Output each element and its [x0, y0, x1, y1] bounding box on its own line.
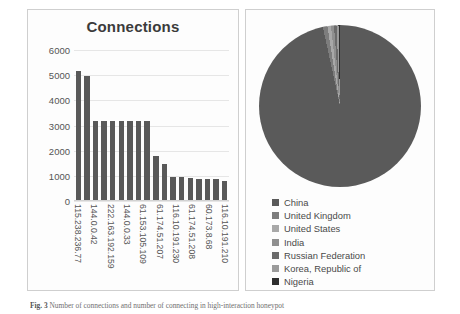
x-tick-slot: 60.173.8.68 — [205, 202, 213, 286]
caption-figure-number: Fig. 3 — [30, 301, 48, 310]
bar-slot — [83, 50, 92, 201]
x-tick-slot: 61.153.105.109 — [139, 202, 147, 286]
bar-slot — [212, 50, 221, 201]
bar-slot — [117, 50, 126, 201]
legend-swatch-icon — [272, 239, 279, 246]
legend-swatch-icon — [272, 212, 279, 219]
bar[interactable] — [196, 179, 201, 201]
x-tick-slot — [147, 202, 155, 286]
legend-item[interactable]: United Kingdom — [272, 209, 428, 222]
legend-label: China — [284, 197, 309, 208]
x-axis-tick: 116.10.191.210 — [220, 204, 230, 263]
legend-item[interactable]: Nigeria — [272, 275, 428, 288]
charts-row: Connections 6000500040003000200010000 11… — [27, 9, 435, 291]
bar[interactable] — [205, 179, 210, 201]
bar-slot — [169, 50, 178, 201]
x-tick-slot — [196, 202, 204, 286]
bar-slot — [220, 50, 229, 201]
y-axis-tick: 1000 — [49, 170, 70, 181]
x-tick-slot: 115.238.236.77 — [74, 202, 82, 286]
bar[interactable] — [179, 177, 184, 201]
legend-item[interactable]: United States — [272, 222, 428, 235]
bar[interactable] — [144, 121, 149, 201]
bar-slot — [160, 50, 169, 201]
legend-item[interactable]: India — [272, 236, 428, 249]
x-tick-slot: 144.0.0.33 — [123, 202, 131, 286]
bar[interactable] — [188, 178, 193, 201]
pie-chart-legend: ChinaUnited KingdomUnited StatesIndiaRus… — [272, 196, 428, 288]
bar-slot — [203, 50, 212, 201]
x-tick-slot: 116.10.191.230 — [172, 202, 180, 286]
bar-slot — [177, 50, 186, 201]
bar-slot — [74, 50, 83, 201]
pie-chart-area — [246, 18, 434, 194]
legend-label: United Kingdom — [284, 210, 351, 221]
bar-slot — [143, 50, 152, 201]
y-axis-tick-labels: 6000500040003000200010000 — [30, 50, 72, 201]
bar-slot — [151, 50, 160, 201]
legend-item[interactable]: China — [272, 196, 428, 209]
legend-swatch-icon — [272, 252, 279, 259]
bar[interactable] — [110, 121, 115, 201]
y-axis-tick: 0 — [65, 196, 70, 207]
pie-chart-panel: ChinaUnited KingdomUnited StatesIndiaRus… — [245, 9, 435, 291]
x-tick-slot: 116.10.191.210 — [221, 202, 229, 286]
bar-chart-title: Connections — [28, 18, 238, 35]
bar-slot — [186, 50, 195, 201]
bar[interactable] — [153, 156, 158, 201]
bar[interactable] — [127, 121, 132, 201]
legend-label: Nigeria — [284, 276, 314, 287]
bar-slot — [108, 50, 117, 201]
figure-caption: Fig. 3 Number of connections and number … — [30, 301, 434, 311]
pie-chart — [259, 25, 421, 187]
y-axis-tick: 6000 — [49, 45, 70, 56]
x-tick-slot: 61.174.51.208 — [188, 202, 196, 286]
bar[interactable] — [93, 121, 98, 201]
bar-chart-plot-area — [74, 50, 229, 201]
legend-label: Korea, Republic of — [284, 263, 361, 274]
bar-chart-panel: Connections 6000500040003000200010000 11… — [27, 9, 239, 291]
bar-slot — [126, 50, 135, 201]
x-axis-tick-labels: 115.238.236.77144.0.0.42222.163.192.1591… — [74, 202, 229, 286]
legend-item[interactable]: Korea, Republic of — [272, 262, 428, 275]
x-tick-slot: 144.0.0.42 — [90, 202, 98, 286]
y-axis-tick: 5000 — [49, 70, 70, 81]
bar[interactable] — [84, 76, 89, 201]
legend-item[interactable]: Russian Federation — [272, 249, 428, 262]
bar[interactable] — [119, 121, 124, 201]
y-axis-tick: 2000 — [49, 145, 70, 156]
bar[interactable] — [76, 71, 81, 201]
bar-slot — [100, 50, 109, 201]
y-axis-tick: 3000 — [49, 120, 70, 131]
caption-text: Number of connections and number of conn… — [50, 301, 285, 310]
bar-series — [74, 50, 229, 201]
legend-label: United States — [284, 223, 340, 234]
bar-slot — [91, 50, 100, 201]
legend-swatch-icon — [272, 225, 279, 232]
bar-slot — [195, 50, 204, 201]
bar[interactable] — [170, 177, 175, 201]
bar[interactable] — [101, 121, 106, 201]
bar[interactable] — [162, 164, 167, 201]
figure-container: Connections 6000500040003000200010000 11… — [0, 0, 460, 314]
legend-swatch-icon — [272, 265, 279, 272]
bar[interactable] — [213, 179, 218, 201]
x-tick-slot — [98, 202, 106, 286]
x-tick-slot: 222.163.192.159 — [107, 202, 115, 286]
legend-swatch-icon — [272, 278, 279, 285]
legend-label: India — [284, 237, 304, 248]
legend-swatch-icon — [272, 199, 279, 206]
bar[interactable] — [136, 121, 141, 201]
y-axis-tick: 4000 — [49, 95, 70, 106]
x-tick-slot: 61.174.51.207 — [156, 202, 164, 286]
bar-slot — [134, 50, 143, 201]
bar[interactable] — [222, 181, 227, 201]
x-axis-line — [74, 200, 229, 201]
legend-label: Russian Federation — [284, 250, 365, 261]
